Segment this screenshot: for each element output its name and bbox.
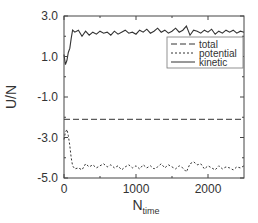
legend: totalpotentialkinetic — [167, 37, 243, 68]
chart-container: 0100020003.01.0-1.0-3.0-5.0 totalpotenti… — [0, 0, 258, 223]
x-axis-label: Ntime — [132, 197, 159, 216]
x-axis-label-main: N — [132, 197, 142, 213]
legend-label-kinetic: kinetic — [199, 57, 227, 68]
y-axis-label: U/N — [3, 85, 19, 109]
series-potential-line — [64, 129, 244, 172]
x-tick-label: 0 — [61, 182, 68, 196]
y-tick-label: -1.0 — [37, 90, 58, 104]
y-tick-label: 3.0 — [41, 9, 58, 23]
x-tick-label: 2000 — [195, 182, 222, 196]
y-tick-label: -5.0 — [37, 171, 58, 185]
y-tick-label: 1.0 — [41, 50, 58, 64]
x-axis-label-subscript: time — [143, 206, 160, 216]
line-chart: 0100020003.01.0-1.0-3.0-5.0 totalpotenti… — [0, 0, 258, 223]
y-tick-label: -3.0 — [37, 131, 58, 145]
x-tick-label: 1000 — [123, 182, 150, 196]
